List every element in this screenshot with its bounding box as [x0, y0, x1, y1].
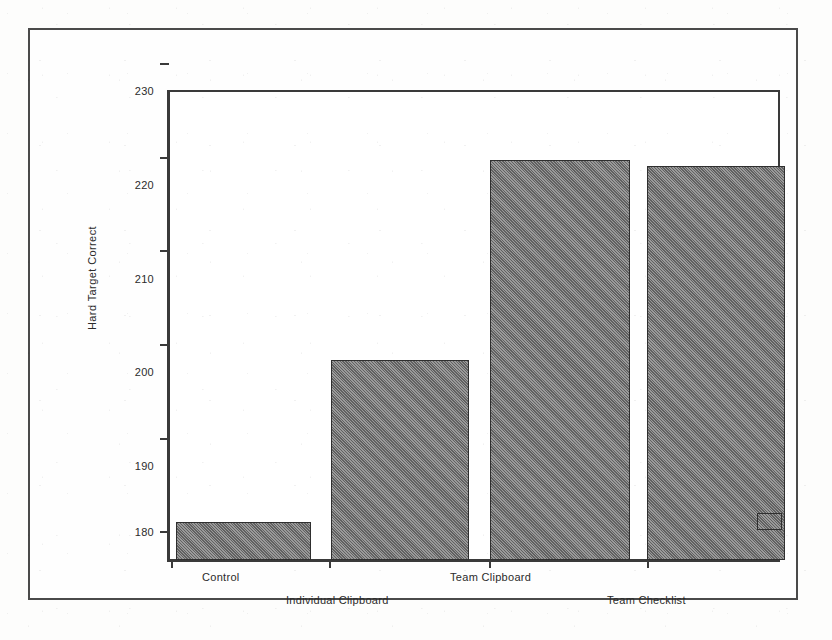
bar-individual-clipboard	[331, 360, 469, 560]
y-tick-label-180-wrap: 180	[108, 527, 154, 538]
figure-border: Hard Target Correct 230 220 210 200 190 …	[28, 28, 798, 600]
x-tick-mark-2	[329, 561, 331, 568]
y-tick-label-200: 200	[108, 367, 154, 378]
y-tick-label-220: 220	[108, 180, 154, 191]
bar-control	[176, 522, 311, 561]
y-tick-label-210-wrap: 210	[108, 274, 154, 285]
x-tick-mark-1	[171, 561, 173, 568]
x-category-label-team-checklist: Team Checklist	[607, 594, 686, 606]
y-tick-label-200-wrap: 200	[108, 367, 154, 378]
y-tick-label-220-wrap: 220	[108, 180, 154, 191]
detached-bar-swatch	[757, 513, 782, 530]
y-tick-label-230-wrap: 230	[108, 86, 154, 97]
x-category-label-control: Control	[202, 571, 240, 583]
x-tick-mark-4	[647, 561, 649, 568]
bar-team-clipboard	[490, 160, 630, 560]
y-tick-label-180: 180	[108, 527, 154, 538]
x-category-label-team-clipboard: Team Clipboard	[450, 571, 531, 583]
y-tick-label-190: 190	[108, 461, 154, 472]
y-tick-label-230: 230	[108, 86, 154, 97]
x-tick-mark-3	[489, 561, 491, 568]
y-tick-mark-230	[160, 63, 169, 65]
y-tick-label-210: 210	[108, 274, 154, 285]
scanned-page: Hard Target Correct 230 220 210 200 190 …	[0, 0, 832, 640]
bars-layer	[170, 90, 780, 560]
y-tick-label-190-wrap: 190	[108, 461, 154, 472]
bar-team-checklist	[647, 166, 785, 560]
y-axis-title: Hard Target Correct	[86, 226, 98, 330]
x-category-label-individual-clipboard: Individual Clipboard	[286, 594, 389, 606]
